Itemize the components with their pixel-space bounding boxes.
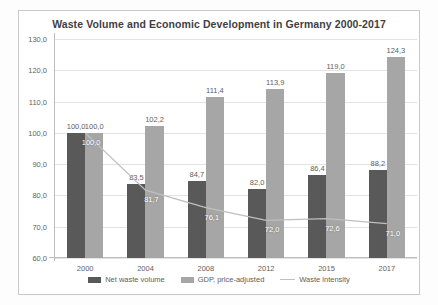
x-axis-tick-label: 2008 bbox=[197, 264, 214, 273]
x-axis-tick-label: 2012 bbox=[258, 264, 275, 273]
y-axis-tick-label: 60,0 bbox=[32, 254, 47, 263]
bar-group: 84,7111,4 bbox=[176, 39, 236, 258]
y-axis-tick-label: 100,0 bbox=[28, 128, 47, 137]
bar-group: 83,5102,2 bbox=[115, 39, 175, 258]
gridline bbox=[55, 258, 417, 259]
y-axis-tick-label: 70,0 bbox=[32, 222, 47, 231]
bar-label-gdp-price-adjusted: 100,0 bbox=[85, 122, 104, 131]
legend-item[interactable]: Net waste volume bbox=[88, 275, 165, 284]
bar-label-net-waste-volume: 100,0 bbox=[67, 122, 86, 131]
bar-net-waste-volume[interactable] bbox=[308, 175, 326, 258]
bar-label-gdp-price-adjusted: 111,4 bbox=[206, 86, 224, 95]
bar-net-waste-volume[interactable] bbox=[188, 181, 206, 258]
line-label-waste-intensity: 72,0 bbox=[265, 225, 280, 234]
bar-label-net-waste-volume: 82,0 bbox=[250, 178, 265, 187]
legend-item-label: Waste intensity bbox=[299, 275, 350, 284]
bar-group: 88,2124,3 bbox=[357, 39, 417, 258]
bar-label-net-waste-volume: 84,7 bbox=[189, 170, 204, 179]
legend-swatch-icon bbox=[88, 277, 101, 283]
bar-label-net-waste-volume: 88,2 bbox=[370, 159, 385, 168]
x-axis-tick-label: 2015 bbox=[318, 264, 335, 273]
bar-label-gdp-price-adjusted: 102,2 bbox=[145, 115, 164, 124]
legend-swatch-icon bbox=[181, 277, 194, 283]
bar-gdp-price-adjusted[interactable] bbox=[85, 133, 103, 258]
legend-item[interactable]: GDP, price-adjusted bbox=[181, 275, 265, 284]
bar-net-waste-volume[interactable] bbox=[127, 184, 145, 258]
legend-item-label: GDP, price-adjusted bbox=[198, 275, 265, 284]
legend-item-label: Net waste volume bbox=[105, 275, 165, 284]
legend-item[interactable]: Waste intensity bbox=[280, 275, 350, 284]
legend-swatch-icon bbox=[280, 279, 295, 280]
chart-container: Waste Volume and Economic Development in… bbox=[18, 10, 420, 295]
bar-label-gdp-price-adjusted: 113,9 bbox=[266, 78, 284, 87]
bar-net-waste-volume[interactable] bbox=[369, 170, 387, 258]
bar-gdp-price-adjusted[interactable] bbox=[206, 97, 224, 258]
y-axis-tick-label: 120,0 bbox=[28, 66, 47, 75]
bar-label-gdp-price-adjusted: 124,3 bbox=[386, 46, 405, 55]
bar-gdp-price-adjusted[interactable] bbox=[145, 126, 163, 258]
y-axis-tick-label: 130,0 bbox=[28, 35, 47, 44]
bar-net-waste-volume[interactable] bbox=[248, 189, 266, 258]
y-axis-tick-label: 90,0 bbox=[32, 160, 47, 169]
line-label-waste-intensity: 71,0 bbox=[386, 228, 401, 237]
chart-screenshot: Waste Volume and Economic Development in… bbox=[0, 0, 438, 305]
chart-title: Waste Volume and Economic Development in… bbox=[19, 18, 419, 30]
line-label-waste-intensity: 100,0 bbox=[82, 137, 101, 146]
plot-area: 60,070,080,090,0100,0110,0120,0130,0 100… bbox=[55, 39, 417, 258]
chart-legend: Net waste volumeGDP, price-adjustedWaste… bbox=[19, 275, 419, 284]
line-label-waste-intensity: 76,1 bbox=[205, 212, 220, 221]
bar-label-net-waste-volume: 83,5 bbox=[129, 173, 144, 182]
x-axis-tick-label: 2017 bbox=[378, 264, 395, 273]
x-axis-tick-label: 2000 bbox=[77, 264, 94, 273]
bar-label-net-waste-volume: 86,4 bbox=[310, 164, 325, 173]
line-label-waste-intensity: 81,7 bbox=[144, 195, 159, 204]
bar-group: 100,0100,0 bbox=[55, 39, 115, 258]
y-axis-tick-label: 80,0 bbox=[32, 191, 47, 200]
y-axis-tick-label: 110,0 bbox=[29, 97, 47, 106]
bar-net-waste-volume[interactable] bbox=[67, 133, 85, 258]
x-axis-tick-label: 2004 bbox=[137, 264, 154, 273]
line-label-waste-intensity: 72,6 bbox=[325, 223, 340, 232]
bar-label-gdp-price-adjusted: 119,0 bbox=[326, 62, 344, 71]
